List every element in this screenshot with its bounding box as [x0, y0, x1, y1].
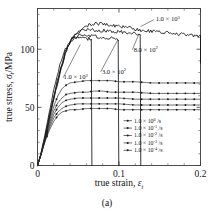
data-point	[185, 109, 187, 111]
data-point	[141, 81, 143, 83]
caption-text: (a)	[102, 198, 113, 209]
curve-line	[38, 34, 119, 165]
legend-swatch-marker	[127, 120, 129, 122]
annotation-leader	[141, 20, 154, 27]
legend-swatch-marker	[127, 127, 129, 129]
data-point	[176, 109, 178, 111]
data-point	[74, 98, 76, 100]
figure-caption: (a)	[102, 198, 113, 209]
legend-swatch-marker	[127, 135, 129, 137]
legend-label: 1.0 × 10-1 /s	[134, 124, 163, 131]
data-point	[106, 80, 108, 82]
data-point	[123, 91, 125, 93]
stress-strain-chart: 05010000.10.2 1.0 × 1038.0 × 1023.0 × 10…	[0, 0, 214, 215]
legend-item: 1.0 × 10-3 /s	[124, 139, 163, 146]
data-point	[193, 104, 195, 106]
data-point	[176, 92, 178, 94]
data-markers	[46, 80, 195, 138]
data-point	[141, 104, 143, 106]
data-point	[90, 103, 92, 105]
data-point	[185, 98, 187, 100]
curve-annotation: 1.0 × 102	[64, 73, 89, 80]
series	[38, 28, 141, 165]
data-point	[193, 92, 195, 94]
data-point	[158, 82, 160, 84]
data-point	[90, 80, 92, 82]
data-point	[185, 82, 187, 84]
data-point	[123, 109, 125, 111]
data-point	[123, 103, 125, 105]
legend: 1.0 × 100 /s1.0 × 10-1 /s1.0 × 10-2 /s1.…	[124, 117, 163, 154]
data-point	[132, 98, 134, 100]
legend-swatch-marker	[127, 149, 129, 151]
data-point	[158, 109, 160, 111]
data-point	[74, 81, 76, 83]
data-point	[193, 109, 195, 111]
data-point	[176, 82, 178, 84]
data-point	[65, 94, 67, 96]
curve-line	[38, 28, 141, 165]
legend-item: 1.0 × 10-4 /s	[124, 146, 163, 153]
data-point	[115, 108, 117, 110]
fracture-drop	[118, 40, 119, 165]
data-point	[56, 116, 58, 118]
data-point	[106, 97, 108, 99]
legend-swatch-marker	[127, 142, 129, 144]
data-point	[158, 92, 160, 94]
y-tick-label: 50	[25, 103, 35, 113]
data-point	[141, 98, 143, 100]
curve-annotation: 1.0 × 103	[156, 15, 181, 22]
data-point	[65, 99, 67, 101]
data-point	[167, 98, 169, 100]
data-point	[176, 98, 178, 100]
figure-container: 05010000.10.2 1.0 × 1038.0 × 1023.0 × 10…	[0, 0, 214, 215]
data-point	[132, 91, 134, 93]
data-point	[82, 97, 84, 99]
tick-labels: 05010000.10.2	[20, 45, 206, 179]
data-point	[123, 81, 125, 83]
data-point	[98, 97, 100, 99]
data-point	[149, 98, 151, 100]
data-point	[106, 108, 108, 110]
data-point	[132, 81, 134, 83]
legend-item: 1.0 × 100 /s	[124, 117, 162, 124]
data-point	[98, 90, 100, 92]
data-point	[82, 103, 84, 105]
data-point	[141, 109, 143, 111]
fracture-drop	[91, 40, 92, 166]
data-point	[149, 82, 151, 84]
data-point	[193, 98, 195, 100]
data-point	[74, 109, 76, 111]
series	[38, 34, 119, 165]
legend-label: 1.0 × 10-2 /s	[134, 131, 163, 138]
data-point	[74, 92, 76, 94]
data-point	[98, 103, 100, 105]
legend-item: 1.0 × 10-1 /s	[124, 124, 163, 131]
legend-label: 1.0 × 10-3 /s	[134, 139, 163, 146]
data-point	[82, 91, 84, 93]
data-point	[115, 80, 117, 82]
data-point	[167, 109, 169, 111]
data-point	[46, 135, 48, 137]
data-point	[132, 104, 134, 106]
data-point	[193, 82, 195, 84]
legend-label: 1.0 × 10-4 /s	[134, 146, 163, 153]
y-tick-label: 0	[30, 161, 35, 171]
data-point	[82, 108, 84, 110]
data-point	[106, 103, 108, 105]
legend-label: 1.0 × 100 /s	[134, 117, 162, 124]
data-point	[185, 104, 187, 106]
data-point	[167, 104, 169, 106]
data-point	[56, 98, 58, 100]
data-point	[158, 104, 160, 106]
data-point	[115, 103, 117, 105]
data-point	[56, 113, 58, 115]
curve-annotation: 8.0 × 102	[134, 45, 159, 52]
data-point	[149, 109, 151, 111]
data-point	[167, 82, 169, 84]
data-point	[176, 104, 178, 106]
data-point	[90, 97, 92, 99]
legend-item: 1.0 × 10-2 /s	[124, 131, 163, 138]
data-point	[90, 91, 92, 93]
data-point	[149, 92, 151, 94]
